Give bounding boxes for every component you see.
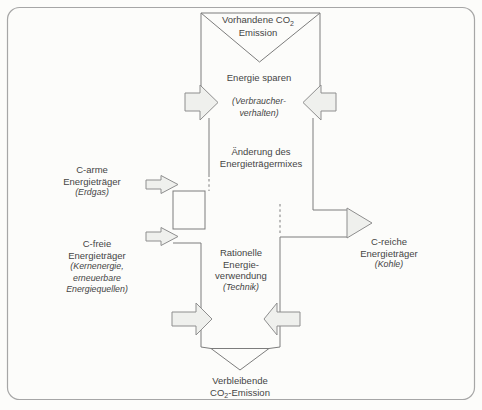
technik-arrow-right (264, 303, 300, 335)
technik-arrow-left (172, 303, 212, 335)
label-c-arme-line2: Energieträger (22, 176, 162, 188)
label-rationelle-energieverwendung: Rationelle Energie- verwendung (Technik) (171, 247, 311, 293)
label-rationell-line2: Energie- (171, 259, 311, 271)
label-rationell-line3: verwendung (171, 270, 311, 282)
label-c-freie: C-freie Energieträger (Kernenergie, erne… (27, 238, 167, 296)
label-verbraucherverhalten: (Verbraucher- verhalten) (189, 96, 329, 119)
label-aenderung-mix-line1: Änderung des (191, 146, 331, 158)
label-verbraucherverhalten-line2: verhalten) (189, 108, 329, 120)
label-rationell-line1: Rationelle (171, 247, 311, 259)
label-vorhandene-co2-line1: Vorhandene CO2 (188, 14, 328, 27)
bottom-funnel-triangle (211, 349, 269, 371)
label-c-reiche: C-reiche Energieträger (Kohle) (319, 236, 459, 271)
label-c-reiche-note: (Kohle) (319, 259, 459, 271)
label-verbleibende-line1: Verbleibende (170, 375, 310, 387)
label-verbraucherverhalten-line1: (Verbraucher- (189, 96, 329, 108)
c-reiche-output-arrowhead (347, 208, 372, 238)
label-aenderung-mix: Änderung des Energieträgermixes (191, 146, 331, 169)
label-c-arme-note: (Erdgas) (22, 187, 162, 199)
label-c-arme-line1: C-arme (22, 164, 162, 176)
bottom-funnel-shoulders (201, 347, 280, 349)
label-verbleibende-co2: Verbleibende CO2-Emission (170, 375, 310, 399)
label-vorhandene-co2-line2: Emission (188, 27, 328, 39)
label-c-freie-line1: C-freie (27, 238, 167, 250)
label-energie-sparen: Energie sparen (189, 72, 329, 84)
label-aenderung-mix-line2: Energieträgermixes (191, 158, 331, 170)
label-c-reiche-line2: Energieträger (319, 248, 459, 260)
label-vorhandene-co2: Vorhandene CO2 Emission (188, 14, 328, 38)
label-c-freie-note3: Energiequellen) (27, 284, 167, 296)
figure-border (8, 8, 475, 400)
left-inlet-pocket (173, 191, 205, 229)
label-c-freie-note1: (Kernenergie, (27, 261, 167, 273)
label-c-freie-note2: erneuerbare (27, 273, 167, 285)
label-c-arme: C-arme Energieträger (Erdgas) (22, 164, 162, 199)
label-c-freie-line2: Energieträger (27, 250, 167, 262)
label-rationell-note: (Technik) (171, 282, 311, 294)
flow-diagram-linework (0, 0, 482, 410)
label-energie-sparen-title: Energie sparen (189, 72, 329, 84)
label-verbleibende-line2: CO2-Emission (170, 387, 310, 400)
co2-emission-flow-diagram: Vorhandene CO2 Emission Energie sparen (… (0, 0, 482, 410)
label-c-reiche-line1: C-reiche (319, 236, 459, 248)
